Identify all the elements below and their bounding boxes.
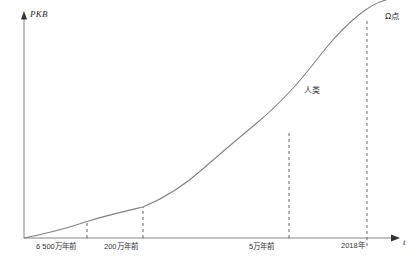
plot-canvas — [0, 0, 415, 265]
x-axis-label: t — [403, 238, 406, 247]
x-tick-label-year-2018: 2018年 — [341, 242, 365, 250]
y-axis-arrowhead — [21, 11, 27, 20]
annotation-omega-point: Ω点 — [385, 12, 400, 21]
x-tick-label-2-million-years-ago: 200万年前 — [104, 243, 138, 251]
pkb-growth-curve — [24, 0, 386, 238]
chart-figure: PKB t 6 500万年前 200万年前 5万年前 2018年 人类 Ω点 — [0, 0, 415, 265]
x-axis-arrowhead — [391, 235, 400, 242]
x-tick-label-50-thousand-years-ago: 5万年前 — [249, 243, 274, 251]
y-axis-label: PKB — [30, 10, 48, 19]
annotation-human: 人类 — [304, 87, 320, 95]
y-axis — [21, 11, 27, 238]
x-tick-label-65-million-years-ago: 6 500万年前 — [36, 243, 76, 251]
marker-gridlines — [87, 20, 367, 246]
